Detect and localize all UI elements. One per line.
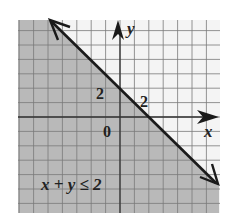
inequality-label: x + y ≤ 2 bbox=[40, 175, 102, 194]
x-axis-label: x bbox=[203, 122, 213, 141]
y-axis-label: y bbox=[125, 19, 135, 38]
inequality-graph: y x 2 2 0 x + y ≤ 2 bbox=[0, 0, 234, 219]
x-intercept-label: 2 bbox=[140, 93, 148, 110]
y-intercept-label: 2 bbox=[96, 85, 104, 102]
origin-label: 0 bbox=[103, 123, 111, 140]
